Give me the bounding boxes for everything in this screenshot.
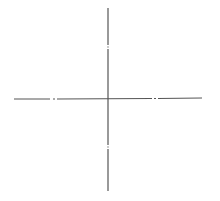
horizontal-axis-middle	[57, 99, 152, 100]
axes-diagram	[0, 0, 220, 201]
horizontal-axis-right	[158, 98, 202, 99]
